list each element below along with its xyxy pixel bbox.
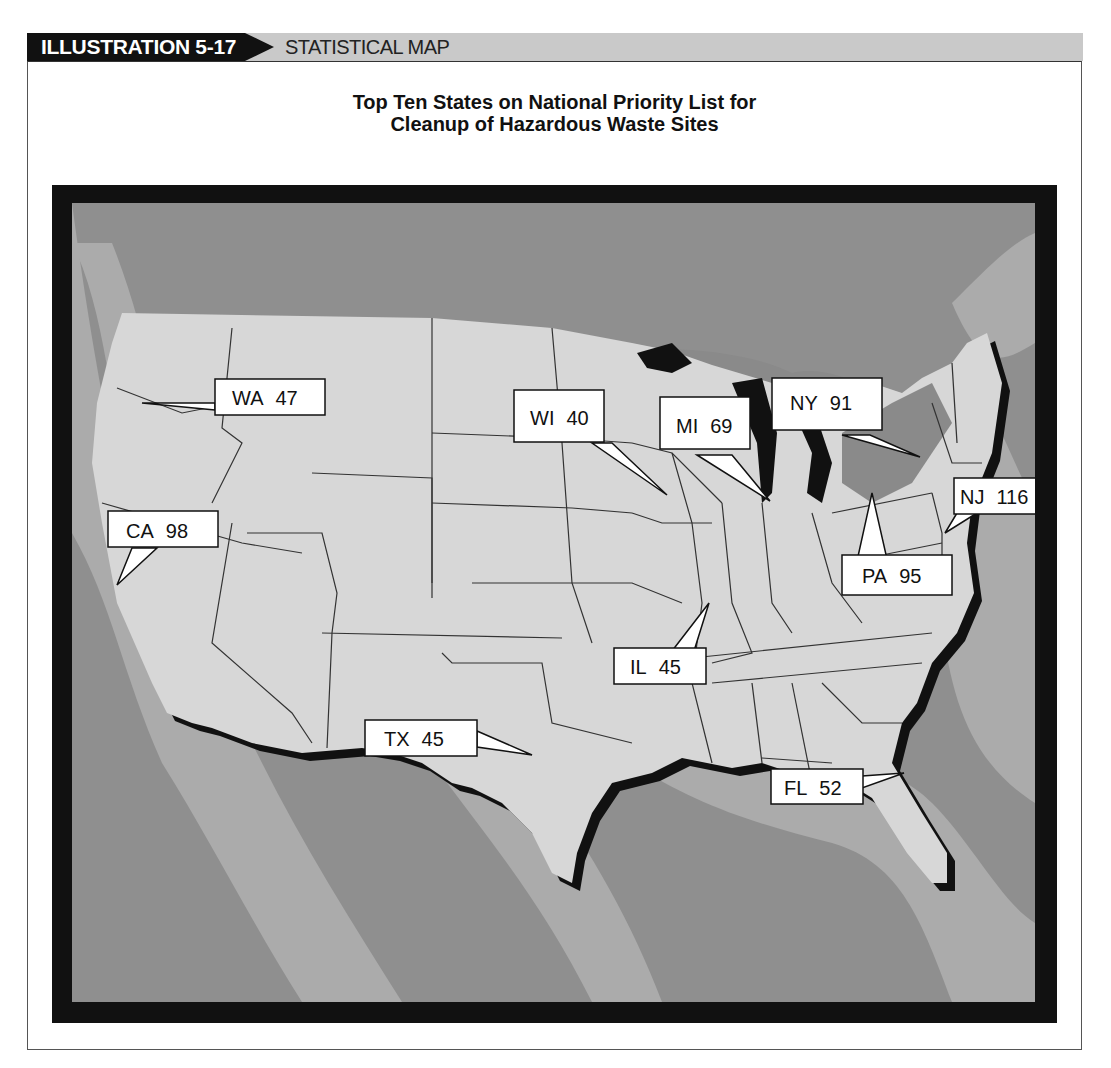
map-title-line-1: Top Ten States on National Priority List… (27, 91, 1082, 113)
illustration-number: ILLUSTRATION 5-17 (27, 33, 274, 61)
map-title: Top Ten States on National Priority List… (27, 91, 1082, 135)
us-map: WA47 WI40 MI69 NY91 NJ116 CA98 (72, 203, 1035, 1002)
illustration-type: STATISTICAL MAP (285, 33, 449, 61)
us-map-svg: WA47 WI40 MI69 NY91 NJ116 CA98 (72, 203, 1035, 1002)
map-title-line-2: Cleanup of Hazardous Waste Sites (27, 113, 1082, 135)
illustration-header: ILLUSTRATION 5-17 STATISTICAL MAP (27, 33, 1083, 61)
